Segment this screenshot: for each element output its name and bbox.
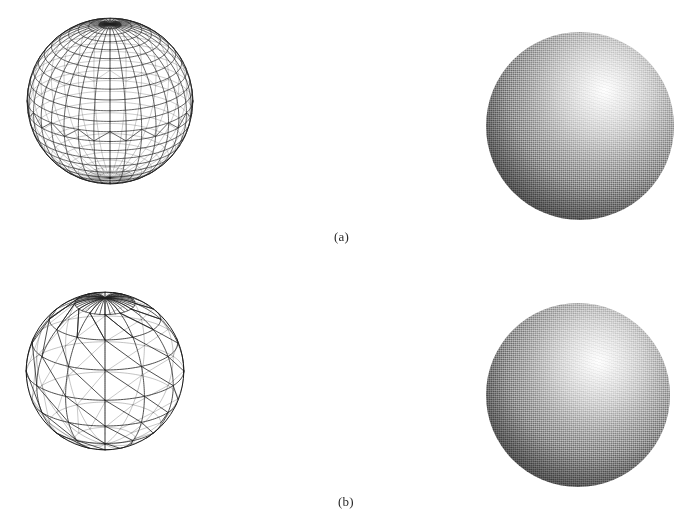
coarse-shaded-sphere	[486, 303, 670, 487]
coarse-wireframe-sphere-panel	[25, 291, 185, 451]
figure-caption-a: (a)	[334, 229, 349, 245]
figure-caption-b: (b)	[338, 494, 354, 510]
fine-wireframe-sphere-panel	[26, 17, 194, 185]
fine-shaded-sphere	[486, 32, 674, 220]
fine-tessellated-wireframe-sphere	[26, 17, 194, 185]
coarse-tessellated-wireframe-sphere	[25, 291, 185, 451]
